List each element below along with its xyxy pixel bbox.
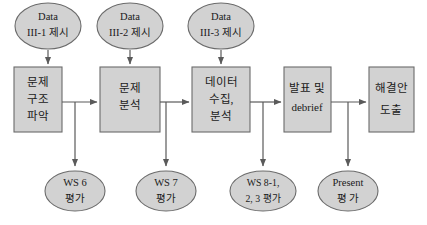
process-node-line2: debrief — [291, 101, 322, 113]
evaluation-node-line1: WS 6 — [63, 177, 87, 188]
input-ellipse-shape — [97, 3, 163, 49]
evaluation-node-line1: WS 7 — [154, 177, 178, 188]
process-node-data-collection[interactable]: 데이터 수집, 분석 — [192, 67, 250, 132]
process-node-line3: 파악 — [27, 110, 49, 122]
evaluation-node-line1: WS 8-1, — [247, 177, 280, 188]
evaluation-node-line2: 평가 — [156, 193, 176, 204]
process-node-line1: 발표 및 — [289, 82, 325, 94]
process-box-shape — [369, 67, 414, 132]
process-node-line1: 문제 — [27, 76, 49, 88]
evaluation-node-present[interactable]: Present 평 가 — [318, 171, 378, 211]
input-node-line2: III-3 제시 — [200, 27, 242, 38]
evaluation-node-line2: 평 가 — [337, 193, 360, 204]
process-node-line3: 분석 — [210, 110, 232, 122]
process-node-line2: 구조 — [27, 93, 49, 105]
flowchart-canvas: Data III-1 제시 Data III-2 제시 Data III-3 제… — [0, 0, 427, 225]
evaluation-node-line2: 2, 3 평가 — [245, 193, 280, 204]
process-node-line2: 도출 — [380, 104, 402, 116]
input-node-line1: Data — [38, 11, 58, 22]
process-node-line1: 해결안 — [375, 82, 408, 94]
process-node-solution-derivation[interactable]: 해결안 도출 — [369, 67, 414, 132]
process-node-line1: 데이터 — [205, 76, 238, 88]
evaluation-node-line2: 평가 — [65, 193, 85, 204]
input-node-data-3-2[interactable]: Data III-2 제시 — [97, 3, 163, 49]
process-box-shape — [284, 67, 331, 132]
evaluation-node-ws-7[interactable]: WS 7 평가 — [136, 171, 196, 211]
input-node-line2: III-2 제시 — [109, 27, 151, 38]
input-ellipse-shape — [188, 3, 254, 49]
evaluation-node-line1: Present — [333, 177, 364, 188]
process-node-line2: 분석 — [119, 99, 141, 111]
input-node-line2: III-1 제시 — [27, 27, 69, 38]
input-ellipse-shape — [15, 3, 81, 49]
process-node-line1: 문제 — [119, 82, 141, 94]
input-node-data-3-3[interactable]: Data III-3 제시 — [188, 3, 254, 49]
evaluation-node-ws-8[interactable]: WS 8-1, 2, 3 평가 — [230, 171, 296, 211]
process-node-line2: 수집, — [209, 93, 234, 106]
input-node-line1: Data — [120, 11, 140, 22]
process-node-problem-structure[interactable]: 문제 구조 파악 — [14, 67, 62, 132]
evaluation-node-ws-6[interactable]: WS 6 평가 — [45, 171, 105, 211]
input-node-data-3-1[interactable]: Data III-1 제시 — [15, 3, 81, 49]
process-node-presentation-debrief[interactable]: 발표 및 debrief — [284, 67, 331, 132]
process-node-problem-analysis[interactable]: 문제 분석 — [100, 67, 160, 132]
input-node-line1: Data — [211, 11, 231, 22]
